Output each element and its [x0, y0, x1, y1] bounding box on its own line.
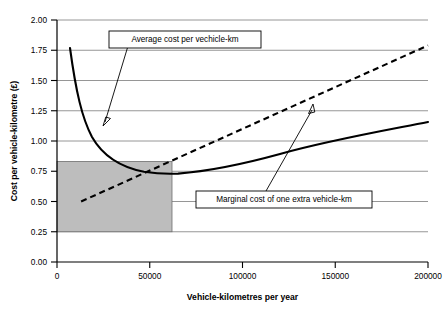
y-tick-label: 2.00	[31, 15, 48, 25]
chart-canvas: 2.00 1.75 1.50 1.25 1.00 0.75 0.50 0.25 …	[0, 0, 447, 309]
y-tick-label: 0.50	[31, 197, 48, 207]
y-tick-label: 0.00	[31, 257, 48, 267]
y-tick-label: 1.25	[31, 106, 48, 116]
x-tick-label: 50000	[138, 271, 161, 281]
x-tick-label: 100000	[229, 271, 257, 281]
x-tick-label: 0	[55, 271, 60, 281]
x-axis-title: Vehicle-kilometres per year	[187, 292, 299, 302]
y-axis-tick-labels: 2.00 1.75 1.50 1.25 1.00 0.75 0.50 0.25 …	[31, 15, 48, 267]
x-tick-label: 200000	[414, 271, 442, 281]
y-tick-label: 1.75	[31, 45, 48, 55]
y-tick-label: 0.25	[31, 227, 48, 237]
y-tick-label: 1.50	[31, 76, 48, 86]
y-tick-label: 0.75	[31, 166, 48, 176]
total-cost-shaded-rectangle	[57, 162, 172, 232]
y-axis-title: Cost per vehicle-kilometre (£)	[9, 81, 19, 201]
marginal-cost-callout-text: Marginal cost of one extra vehicle-km	[216, 195, 352, 204]
y-axis-ticks	[51, 20, 57, 262]
x-tick-label: 150000	[321, 271, 349, 281]
y-tick-label: 1.00	[31, 136, 48, 146]
cost-curves-chart: 2.00 1.75 1.50 1.25 1.00 0.75 0.50 0.25 …	[0, 0, 447, 309]
x-axis-tick-labels: 0 50000 100000 150000 200000	[55, 271, 443, 281]
x-axis-ticks	[57, 262, 428, 268]
average-cost-callout-text: Average cost per vechicle-km	[131, 35, 238, 44]
